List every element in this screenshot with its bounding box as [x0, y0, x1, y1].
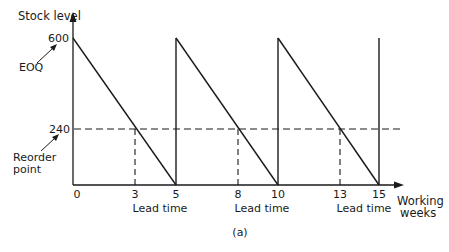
x-tick: 8 [235, 189, 242, 201]
lead-time-label: Lead time [337, 203, 392, 215]
lead-time-label: Lead time [235, 203, 290, 215]
reorder-pointer [41, 138, 55, 151]
lead-time-label: Lead time [133, 203, 188, 215]
eoq-label: EOQ [19, 62, 43, 74]
y-tick-600: 600 [48, 33, 69, 45]
y-axis-label: Stock level [18, 10, 81, 22]
x-tick: 13 [333, 189, 347, 201]
x-tick: 15 [372, 189, 386, 201]
x-tick: 3 [132, 189, 139, 201]
lead-time-markers [135, 129, 340, 185]
x-axis-label-line2: weeks [400, 207, 436, 219]
x-axis-arrow-icon [394, 182, 404, 189]
figure-caption: (a) [232, 227, 247, 239]
x-tick: 0 [74, 189, 81, 201]
x-tick: 5 [173, 189, 180, 201]
reorder-label-line2: point [13, 164, 41, 176]
y-tick-240: 240 [49, 124, 70, 136]
stock-sawtooth [73, 38, 379, 185]
x-tick: 10 [271, 189, 285, 201]
